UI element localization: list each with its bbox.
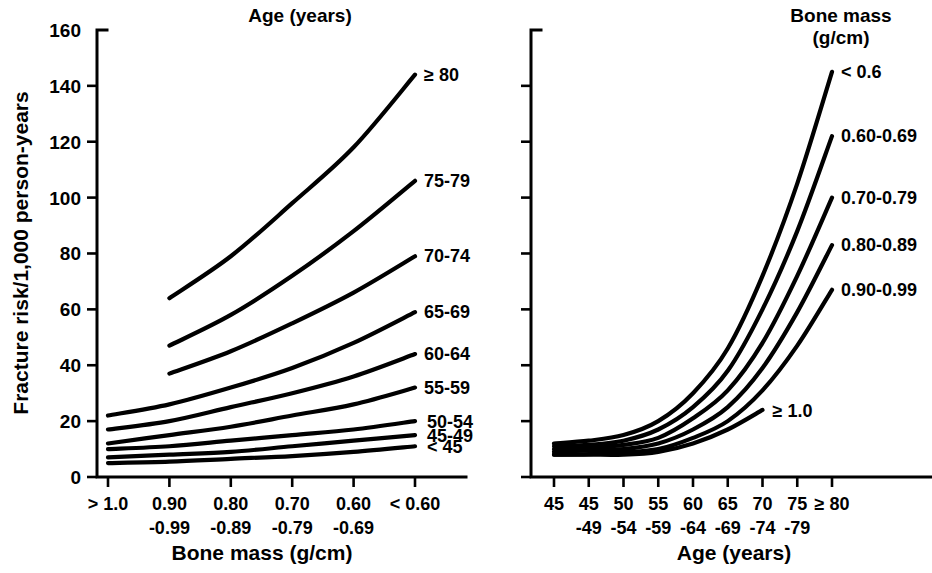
left-curve-label-7579: 75-79 bbox=[424, 171, 470, 191]
right-xtick-label-8: ≥ 80 bbox=[815, 494, 850, 514]
left-xtick-sublabel-4: -0.69 bbox=[333, 518, 374, 538]
left-xtick-label-3: 0.70 bbox=[275, 494, 310, 514]
right-xtick-label-3: 55 bbox=[648, 494, 668, 514]
right-curve-label-060069: 0.60-0.69 bbox=[841, 126, 917, 146]
right-curve-label-090099: 0.90-0.99 bbox=[841, 280, 917, 300]
left-curve-label-7074: 70-74 bbox=[424, 246, 470, 266]
right-curve-label-070079: 0.70-0.79 bbox=[841, 188, 917, 208]
left-plot-svg: 020406080100120140160> 1.00.90-0.990.80-… bbox=[0, 0, 466, 573]
right-xtick-sublabel-7: -79 bbox=[784, 518, 810, 538]
left-curve-label-80: ≥ 80 bbox=[424, 65, 459, 85]
left-ytick-label-0: 0 bbox=[70, 467, 81, 488]
left-ytick-label-60: 60 bbox=[60, 299, 81, 320]
right-xtick-sublabel-3: -59 bbox=[645, 518, 671, 538]
left-xtick-label-2: 0.80 bbox=[213, 494, 248, 514]
right-legend-title-line2: (g/cm) bbox=[813, 27, 870, 48]
right-curve-label-080089: 0.80-0.89 bbox=[841, 235, 917, 255]
panel-right-age: 4545-4950-5455-5960-6465-6970-7475-79≥ 8… bbox=[466, 0, 932, 573]
left-curve-label-5559: 55-59 bbox=[424, 378, 470, 398]
right-curve-label-06: < 0.6 bbox=[841, 62, 882, 82]
left-xtick-sublabel-2: -0.89 bbox=[210, 518, 251, 538]
right-curve-label-10: ≥ 1.0 bbox=[773, 401, 813, 421]
left-curve-label-45: < 45 bbox=[427, 437, 463, 457]
left-ytick-label-120: 120 bbox=[49, 132, 81, 153]
left-xtick-sublabel-1: -0.99 bbox=[149, 518, 190, 538]
right-curve-06 bbox=[554, 72, 832, 444]
right-xtick-sublabel-5: -69 bbox=[715, 518, 741, 538]
right-xlabel: Age (years) bbox=[677, 541, 791, 564]
right-legend-title-line1: Bone mass bbox=[790, 5, 891, 26]
right-xtick-label-6: 70 bbox=[752, 494, 772, 514]
left-curve-80 bbox=[169, 75, 415, 299]
left-ytick-label-20: 20 bbox=[60, 411, 81, 432]
left-ytick-label-80: 80 bbox=[60, 243, 81, 264]
left-xlabel: Bone mass (g/cm) bbox=[172, 541, 353, 564]
fracture-risk-figure: 020406080100120140160> 1.00.90-0.990.80-… bbox=[0, 0, 932, 573]
right-xtick-label-0: 45 bbox=[544, 494, 564, 514]
right-xtick-sublabel-2: -54 bbox=[610, 518, 636, 538]
right-xtick-sublabel-6: -74 bbox=[749, 518, 775, 538]
left-xtick-label-5: < 0.60 bbox=[390, 494, 441, 514]
panel-left-bone-mass: 020406080100120140160> 1.00.90-0.990.80-… bbox=[0, 0, 466, 573]
left-curve-5559 bbox=[108, 388, 415, 444]
left-legend-title: Age (years) bbox=[248, 5, 352, 26]
left-ytick-label-100: 100 bbox=[49, 188, 81, 209]
right-plot-svg: 4545-4950-5455-5960-6465-6970-7475-79≥ 8… bbox=[466, 0, 932, 573]
right-xtick-label-7: 75 bbox=[787, 494, 807, 514]
left-ytick-label-40: 40 bbox=[60, 355, 81, 376]
left-xtick-label-4: 0.60 bbox=[336, 494, 371, 514]
left-xtick-sublabel-3: -0.79 bbox=[272, 518, 313, 538]
left-curve-6064 bbox=[108, 354, 415, 429]
right-xtick-label-4: 60 bbox=[683, 494, 703, 514]
left-xtick-label-1: 0.90 bbox=[152, 494, 187, 514]
left-xtick-label-0: > 1.0 bbox=[88, 494, 129, 514]
left-ytick-label-140: 140 bbox=[49, 76, 81, 97]
left-curve-label-6569: 65-69 bbox=[424, 302, 470, 322]
right-xtick-sublabel-4: -64 bbox=[680, 518, 706, 538]
right-xtick-label-1: 45 bbox=[579, 494, 599, 514]
right-xtick-sublabel-1: -49 bbox=[576, 518, 602, 538]
right-xtick-label-5: 65 bbox=[718, 494, 738, 514]
left-ylabel: Fracture risk/1,000 person-years bbox=[9, 91, 32, 414]
left-curve-label-6064: 60-64 bbox=[424, 344, 470, 364]
right-xtick-label-2: 50 bbox=[613, 494, 633, 514]
left-ytick-label-160: 160 bbox=[49, 20, 81, 41]
